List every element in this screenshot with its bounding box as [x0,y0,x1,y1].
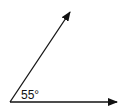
angle-figure: 55° [0,0,133,108]
inclined-ray [10,12,70,102]
angle-diagram: 55° [0,0,133,108]
angle-label: 55° [21,88,39,102]
